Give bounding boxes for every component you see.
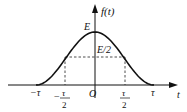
x-axis-label: t: [177, 89, 180, 100]
origin-label: O: [89, 88, 96, 99]
tick-half-tau-numerator: τ: [122, 88, 126, 98]
tick-half-tau: τ 2: [120, 88, 130, 110]
tick-neg-half-tau-numerator: τ: [62, 88, 66, 98]
tick-tau: τ: [151, 87, 155, 98]
tick-neg-tau: −τ: [30, 87, 41, 98]
tick-neg-half-tau-sign: −: [54, 91, 60, 102]
y-axis-label: f(t): [101, 5, 115, 18]
half-amplitude-label: E/2: [96, 44, 111, 55]
peak-label: E: [83, 21, 90, 32]
tick-half-tau-denominator: 2: [122, 100, 127, 110]
raised-cosine-pulse-diagram: f(t) E E/2 O t −τ τ − τ 2 τ 2: [0, 0, 187, 112]
diagram-canvas: f(t) E E/2 O t −τ τ − τ 2 τ 2: [0, 0, 187, 112]
y-axis-arrow-icon: [92, 4, 98, 13]
tick-neg-half-tau: − τ 2: [54, 88, 70, 110]
tick-neg-half-tau-denominator: 2: [62, 100, 67, 110]
x-axis-arrow-icon: [169, 82, 178, 88]
